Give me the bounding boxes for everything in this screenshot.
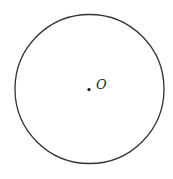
circle-diagram: O xyxy=(0,0,173,179)
center-point-label: O xyxy=(96,77,107,92)
center-point xyxy=(87,88,90,91)
